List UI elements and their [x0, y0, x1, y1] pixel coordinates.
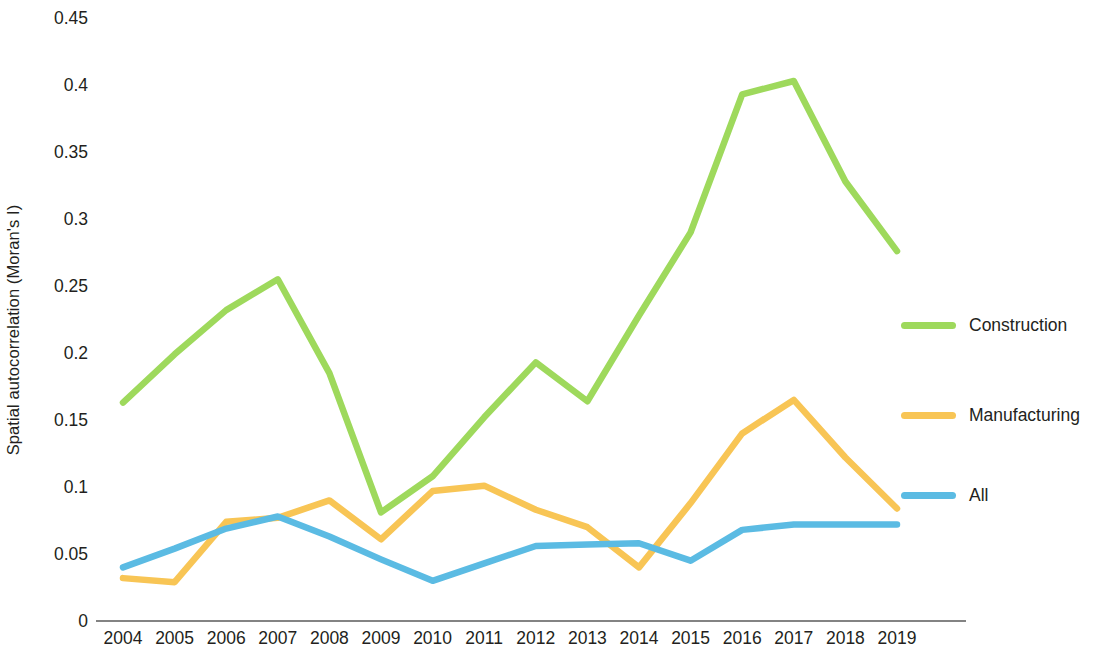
- legend-label: Construction: [969, 315, 1067, 336]
- legend-swatch-icon: [901, 492, 956, 499]
- legend-label: All: [969, 485, 988, 506]
- legend-item-construction[interactable]: Construction: [901, 314, 1067, 336]
- legend-swatch-icon: [901, 322, 956, 329]
- line-chart: Spatial autocorrelation (Moran's I) 00.0…: [0, 0, 1095, 660]
- legend-item-manufacturing[interactable]: Manufacturing: [901, 404, 1080, 426]
- series-line-all: [123, 516, 897, 580]
- series-line-construction: [123, 81, 897, 512]
- legend-swatch-icon: [901, 412, 956, 419]
- series-lines: [123, 81, 897, 582]
- legend-item-all[interactable]: All: [901, 484, 988, 506]
- legend-label: Manufacturing: [969, 405, 1080, 426]
